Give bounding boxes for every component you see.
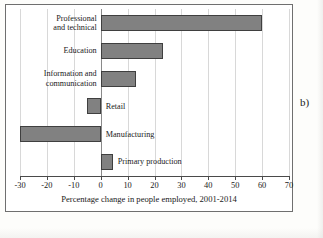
bar-3	[87, 98, 100, 114]
x-tick--30	[20, 176, 21, 180]
gridline--30	[20, 9, 21, 176]
x-axis-title: Percentage change in people employed, 20…	[6, 194, 292, 204]
category-label-3-line-0: Retail	[106, 102, 126, 111]
category-label-5-line-0: Primary production	[118, 157, 182, 166]
x-tick-20	[155, 176, 156, 180]
gridline-60	[262, 9, 263, 176]
scan-edge-shadow	[317, 0, 323, 238]
category-label-4: Manufacturing	[106, 130, 155, 139]
x-tick-50	[235, 176, 236, 180]
category-label-3: Retail	[106, 102, 126, 111]
x-tick--20	[47, 176, 48, 180]
bar-5	[101, 154, 113, 170]
panel-label-b: b)	[300, 96, 309, 108]
gridline-40	[208, 9, 209, 176]
gridline-70	[289, 9, 290, 176]
x-tick-label-70: 70	[285, 181, 293, 191]
x-tick-label--10: -10	[68, 181, 79, 191]
x-tick-label-30: 30	[177, 181, 185, 191]
bar-4	[20, 126, 101, 142]
zero-gridline	[101, 9, 102, 176]
x-tick-label-60: 60	[258, 181, 266, 191]
x-tick-label-10: 10	[123, 181, 131, 191]
category-label-1-line-0: Education	[64, 46, 97, 55]
category-label-0-line-1: and technical	[53, 23, 96, 32]
chart-frame: Professionaland technicalEducationInform…	[5, 4, 293, 212]
gridline-10	[128, 9, 129, 176]
x-tick-70	[289, 176, 290, 180]
gridline-30	[181, 9, 182, 176]
bar-0	[101, 15, 262, 31]
gridline--10	[74, 9, 75, 176]
x-tick-label--20: -20	[41, 181, 52, 191]
bar-1	[101, 43, 163, 59]
category-label-0: Professionaland technical	[53, 14, 96, 32]
x-tick-label-50: 50	[231, 181, 239, 191]
x-tick-label-20: 20	[150, 181, 158, 191]
x-tick--10	[74, 176, 75, 180]
x-tick-10	[128, 176, 129, 180]
category-label-2-line-1: communication	[44, 79, 97, 88]
category-label-4-line-0: Manufacturing	[106, 130, 155, 139]
x-tick-0	[101, 176, 102, 180]
gridline-20	[155, 9, 156, 176]
x-tick-label-40: 40	[204, 181, 212, 191]
x-tick-40	[208, 176, 209, 180]
x-tick-60	[262, 176, 263, 180]
bar-2	[101, 71, 136, 87]
category-label-5: Primary production	[118, 157, 182, 166]
plot-area: Professionaland technicalEducationInform…	[20, 9, 289, 176]
gridline-50	[235, 9, 236, 176]
category-label-2: Information andcommunication	[44, 69, 97, 87]
category-label-0-line-0: Professional	[53, 14, 96, 23]
chart-page: Professionaland technicalEducationInform…	[0, 0, 323, 238]
category-label-2-line-0: Information and	[44, 69, 97, 78]
scan-bottom-shadow	[0, 228, 323, 238]
x-tick-label-0: 0	[99, 181, 103, 191]
gridline--20	[47, 9, 48, 176]
category-label-1: Education	[64, 46, 97, 55]
cropped-title-remnant	[135, 0, 151, 2]
x-tick-label--30: -30	[14, 181, 25, 191]
x-tick-30	[181, 176, 182, 180]
